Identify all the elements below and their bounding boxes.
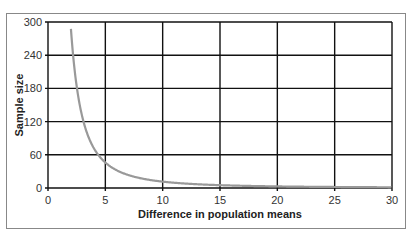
y-tick-label: 60: [30, 149, 42, 161]
y-tick-label: 180: [24, 82, 42, 94]
grid-lines: [45, 22, 392, 191]
x-tick-label: 0: [45, 194, 51, 206]
x-axis-ticks: 051015202530: [45, 194, 398, 206]
x-tick-label: 5: [102, 194, 108, 206]
x-tick-label: 15: [214, 194, 226, 206]
y-axis-ticks: 060120180240300: [24, 16, 42, 194]
x-tick-label: 10: [157, 194, 169, 206]
line-chart: 060120180240300 051015202530 Difference …: [0, 0, 411, 236]
x-tick-label: 30: [386, 194, 398, 206]
y-tick-label: 120: [24, 116, 42, 128]
data-curve: [71, 29, 392, 187]
y-axis-label: Sample size: [13, 74, 25, 137]
x-axis-label: Difference in population means: [138, 208, 302, 220]
x-tick-label: 25: [329, 194, 341, 206]
y-tick-label: 0: [36, 182, 42, 194]
y-tick-label: 300: [24, 16, 42, 28]
x-tick-label: 20: [271, 194, 283, 206]
y-tick-label: 240: [24, 49, 42, 61]
